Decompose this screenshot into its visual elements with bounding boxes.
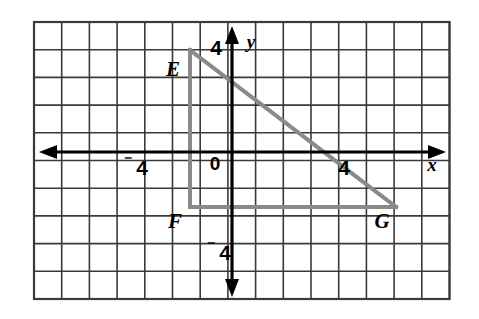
tick-value: 4 — [210, 36, 222, 59]
origin-label: 0 — [210, 153, 221, 174]
screenshot-root: x y 0 ⁻ 4 4 4 ⁻ 4 E F — [0, 0, 479, 319]
tick-value: 4 — [338, 156, 350, 179]
tick-value: 4 — [136, 156, 148, 179]
negative-sign-superscript: ⁻ — [207, 237, 215, 254]
vertex-label-g: G — [374, 209, 389, 233]
tick-label-y-positive-four: 4 — [210, 36, 222, 59]
tick-value: 4 — [219, 241, 231, 264]
coordinate-plane-figure: x y 0 ⁻ 4 4 4 ⁻ 4 E F — [0, 0, 479, 319]
x-axis-label: x — [426, 154, 437, 175]
negative-sign-superscript: ⁻ — [124, 152, 132, 169]
y-axis-label: y — [245, 31, 256, 52]
tick-label-x-positive-four: 4 — [338, 156, 350, 179]
vertex-label-e: E — [165, 57, 180, 81]
vertex-label-f: F — [167, 209, 182, 233]
coordinate-plane-svg: x y 0 ⁻ 4 4 4 ⁻ 4 E F — [0, 0, 479, 319]
